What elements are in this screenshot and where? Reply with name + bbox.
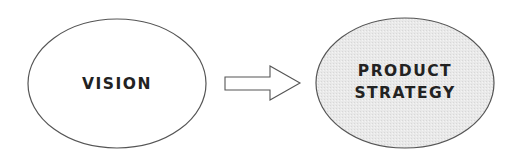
product-strategy-label-line1: PRODUCT <box>358 62 452 80</box>
diagram-canvas: VISION PRODUCT STRATEGY <box>0 0 518 155</box>
product-strategy-node: PRODUCT STRATEGY <box>316 18 494 148</box>
vision-node: VISION <box>28 19 206 148</box>
product-strategy-ellipse <box>316 18 494 148</box>
right-arrow-icon <box>225 66 300 100</box>
product-strategy-label-line2: STRATEGY <box>354 84 455 102</box>
flow-arrow <box>225 66 300 100</box>
vision-label: VISION <box>82 75 152 93</box>
